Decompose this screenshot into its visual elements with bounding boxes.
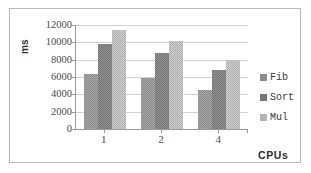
x-axis-tick-label: 4 xyxy=(198,133,238,145)
bar-group xyxy=(141,25,183,129)
y-axis-tick-label: 0 xyxy=(32,124,72,134)
bar-mul-4 xyxy=(226,60,240,129)
legend-label: Sort xyxy=(270,92,294,103)
y-axis-tick xyxy=(72,42,76,43)
bar-mul-1 xyxy=(112,30,126,129)
legend-label: Mul xyxy=(270,112,288,123)
bar-group xyxy=(84,25,126,129)
y-axis-tick-label: 6000 xyxy=(32,72,72,82)
y-axis-tick-label: 8000 xyxy=(32,55,72,65)
legend-item-fib[interactable]: Fib xyxy=(260,67,311,87)
legend-label: Fib xyxy=(270,72,288,83)
y-axis-tick xyxy=(72,94,76,95)
legend-item-mul[interactable]: Mul xyxy=(260,107,311,127)
bar-sort-1 xyxy=(98,44,112,129)
y-axis-tick xyxy=(72,25,76,26)
y-axis-tick xyxy=(72,129,76,130)
y-axis-title: ms xyxy=(18,27,32,67)
bar-sort-4 xyxy=(212,70,226,129)
chart-frame: ms 020004000600080001000012000 124 CPUs … xyxy=(9,8,301,163)
x-axis-tick-labels: 124 xyxy=(75,133,247,149)
y-axis-tick-label: 2000 xyxy=(32,107,72,117)
legend-swatch-icon xyxy=(260,74,267,81)
bar-fib-2 xyxy=(141,78,155,129)
bar-fib-1 xyxy=(84,74,98,129)
chart-legend: FibSortMul xyxy=(260,67,311,127)
y-axis-tick xyxy=(72,112,76,113)
x-axis-tick-label: 2 xyxy=(141,133,181,145)
plot-area xyxy=(75,25,248,130)
bar-sort-2 xyxy=(155,53,169,129)
legend-swatch-icon xyxy=(260,94,267,101)
legend-item-sort[interactable]: Sort xyxy=(260,87,311,107)
bar-group xyxy=(198,25,240,129)
x-axis-tick-label: 1 xyxy=(84,133,124,145)
x-axis-title: CPUs xyxy=(258,149,288,161)
y-axis-tick xyxy=(72,77,76,78)
y-axis-tick-labels: 020004000600080001000012000 xyxy=(32,25,72,129)
y-axis-tick-label: 12000 xyxy=(32,20,72,30)
y-axis-tick-label: 4000 xyxy=(32,89,72,99)
bar-mul-2 xyxy=(169,41,183,129)
bar-fib-4 xyxy=(198,90,212,129)
y-axis-tick xyxy=(72,60,76,61)
y-axis-tick-label: 10000 xyxy=(32,37,72,47)
x-axis-tick xyxy=(247,129,248,133)
legend-swatch-icon xyxy=(260,114,267,121)
